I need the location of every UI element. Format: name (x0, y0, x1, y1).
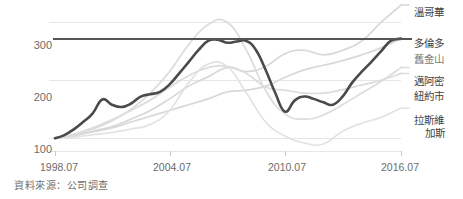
x-axis-tick-2004: 2004.07 (141, 161, 203, 173)
series-label-miami[interactable]: 邁阿密 (414, 75, 444, 88)
x-axis-tick-1998: 1998.07 (28, 161, 90, 173)
series-label-san-francisco-text: 舊金山 (414, 53, 444, 65)
y-axis-tick-100: 100 (18, 143, 52, 155)
series-label-toronto-text: 多倫多 (414, 37, 444, 49)
series-line-las-vegas (55, 62, 401, 146)
series-label-miami-text: 邁阿密 (414, 75, 444, 87)
chart-container: 300 200 100 1998.07 2004.07 2010.07 2016… (0, 0, 463, 199)
series-label-toronto[interactable]: 多倫多 (414, 37, 444, 50)
source-note: 資料來源：公司調查 (14, 177, 109, 192)
series-label-las-vegas-line2: 加斯 (414, 127, 456, 140)
series-label-new-york-city[interactable]: 紐約市 (414, 90, 444, 103)
series-label-las-vegas[interactable]: 拉斯維 加斯 (414, 114, 456, 140)
x-axis-tick-2010: 2010.07 (256, 161, 318, 173)
y-axis-tick-200: 200 (18, 91, 52, 103)
series-line-vancouver (55, 5, 401, 138)
y-axis-tick-300: 300 (18, 39, 52, 51)
series-label-san-francisco[interactable]: 舊金山 (414, 53, 444, 66)
x-axis-tick-2016: 2016.07 (369, 161, 431, 173)
series-label-new-york-city-text: 紐約市 (414, 90, 444, 102)
series-line-miami (55, 19, 401, 138)
series-label-vancouver[interactable]: 溫哥華 (414, 6, 444, 19)
series-label-vancouver-text: 溫哥華 (414, 6, 444, 18)
series-label-las-vegas-line1: 拉斯維 (414, 114, 444, 126)
